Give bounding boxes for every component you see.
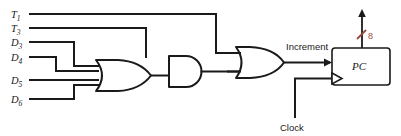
- input-label-d3: D3: [10, 37, 23, 51]
- and-gate: [169, 56, 202, 87]
- input-label-d6: D6: [10, 94, 23, 108]
- increment-arrowhead: [324, 59, 332, 67]
- input-label-t1: T1: [11, 9, 21, 23]
- or-gate-input-stage: [96, 60, 151, 91]
- or-gate-output-stage: [236, 47, 284, 78]
- input-label-t3: T3: [11, 23, 21, 37]
- label-increment: Increment: [286, 41, 329, 52]
- bus-output-arrowhead: [358, 9, 366, 17]
- input-label-d4: D4: [10, 52, 23, 66]
- logic-diagram: T1 T3 D3 D4 D5 D6: [0, 0, 401, 136]
- pc-register-label: PC: [351, 60, 367, 72]
- label-clock: Clock: [280, 122, 304, 133]
- wire-clock: [295, 79, 330, 118]
- bus-width-label: 8: [368, 31, 373, 41]
- wire-t1: [30, 14, 216, 53]
- wire-d4: [30, 57, 56, 71]
- input-label-d5: D5: [10, 75, 23, 89]
- wire-d3: [30, 42, 74, 66]
- wire-d6: [30, 85, 74, 99]
- circuit-canvas: T1 T3 D3 D4 D5 D6: [0, 0, 401, 136]
